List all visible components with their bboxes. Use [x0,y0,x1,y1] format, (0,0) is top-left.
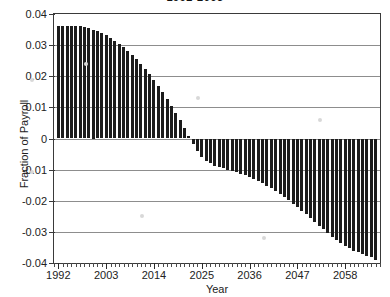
bar [344,139,347,246]
bar [322,139,325,230]
x-axis-minor-tick [63,263,64,267]
x-axis-minor-tick [76,263,77,267]
bar [274,139,277,192]
x-axis-minor-tick [380,263,381,267]
bar [131,55,134,138]
x-axis-minor-tick [363,263,364,267]
x-axis-minor-tick [132,263,133,267]
x-axis-minor-tick [354,263,355,267]
x-axis-minor-tick [119,263,120,267]
bar [374,139,377,260]
x-axis-tick-label: 2036 [237,269,261,281]
bar [331,139,334,237]
x-axis-minor-tick [323,263,324,267]
bar [287,139,290,201]
bar [270,139,273,189]
x-axis-minor-tick [224,263,225,267]
scan-artifact [140,214,144,218]
x-axis-minor-tick [97,263,98,267]
y-axis-tick-label: -0.01 [22,164,47,176]
x-axis-minor-tick [328,263,329,267]
bar [226,139,229,170]
x-axis-minor-tick [293,263,294,267]
bar [222,139,225,169]
x-axis-minor-tick [163,263,164,267]
x-axis-minor-tick [258,263,259,267]
x-axis-minor-tick [115,263,116,267]
x-axis-minor-tick [80,263,81,267]
bar [122,47,125,138]
x-axis-minor-tick [271,263,272,267]
bar [139,64,142,138]
x-axis-minor-tick [267,263,268,267]
bar [200,139,203,157]
scan-artifact [196,96,200,100]
x-axis-minor-tick [306,263,307,267]
x-axis-minor-tick [210,263,211,267]
x-axis-minor-tick [54,263,55,267]
bar [209,139,212,164]
bar [74,26,77,138]
chart-figure: 1992-2065 Fraction of Payroll 0.040.030.… [0,0,390,297]
y-axis-tick-label: -0.02 [22,195,47,207]
bar [126,51,129,138]
x-axis-minor-tick [263,263,264,267]
x-axis-tick-label: 2025 [190,269,214,281]
scan-artifact [30,170,34,174]
x-axis-minor-tick [371,263,372,267]
y-axis-tick-label: 0.01 [26,101,47,113]
bar [170,106,173,139]
x-axis-minor-tick [67,263,68,267]
x-axis-minor-tick [367,263,368,267]
x-axis-minor-tick [71,263,72,267]
y-axis-tick-label: 0.03 [26,39,47,51]
x-axis-tick-label: 2003 [94,269,118,281]
x-axis-minor-tick [215,263,216,267]
bar [235,139,238,173]
bar [305,139,308,215]
bar [83,27,86,138]
x-axis-minor-tick [276,263,277,267]
x-axis-minor-tick [332,263,333,267]
x-axis-minor-tick [84,263,85,267]
bar [57,26,60,139]
bar [296,139,299,207]
bar [152,80,155,139]
bar [179,120,182,138]
scan-artifact [84,62,88,66]
chart-title: 1992-2065 [0,0,390,4]
x-axis-minor-tick [141,263,142,267]
bar [348,139,351,249]
x-axis-minor-tick [150,263,151,267]
x-axis-minor-tick [376,263,377,267]
bar [66,26,69,139]
bar [118,44,121,139]
bar [135,59,138,138]
bar [196,139,199,152]
scan-artifact [262,236,266,240]
x-axis-minor-tick [206,263,207,267]
x-axis-minor-tick [337,263,338,267]
x-axis-tick-label: 2014 [142,269,166,281]
x-axis-minor-tick [145,263,146,267]
bar [183,128,186,139]
y-axis-tick-label: 0.04 [26,8,47,20]
bar [370,139,373,258]
x-axis-minor-tick [167,263,168,267]
bar [265,139,268,186]
x-axis-minor-tick [228,263,229,267]
bar [339,139,342,244]
x-axis-minor-tick [189,263,190,267]
x-axis-minor-tick [341,263,342,267]
x-axis-minor-tick [315,263,316,267]
bar [113,41,116,139]
x-axis-minor-tick [89,263,90,267]
bar [283,139,286,198]
y-axis-tick-label: 0.02 [26,70,47,82]
plot-area: 0.040.030.020.010-0.01-0.02-0.03-0.04 19… [53,13,381,264]
bar [148,74,151,138]
x-axis-tick-label: 2058 [333,269,357,281]
bar [166,99,169,139]
x-axis-minor-tick [284,263,285,267]
y-axis-tick-label: -0.03 [22,226,47,238]
